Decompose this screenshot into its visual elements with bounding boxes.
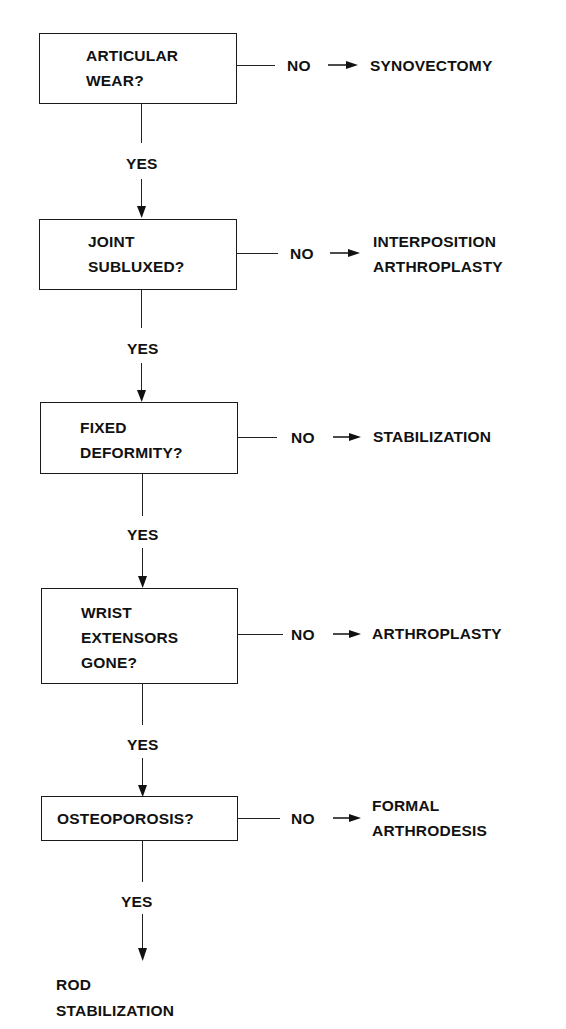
yes-connector-1b [141, 179, 142, 209]
yes-connector-5b [142, 914, 143, 950]
decision-text-joint-subluxed: JOINT SUBLUXED? [88, 229, 185, 279]
yes-connector-4a [142, 684, 143, 725]
no-connector-1 [237, 65, 275, 66]
yes-label-5: YES [121, 889, 153, 914]
right-arrow-icon [328, 61, 361, 822]
outcome-interposition-arthroplasty: INTERPOSITION ARTHROPLASTY [373, 229, 503, 279]
outcome-synovectomy: SYNOVECTOMY [370, 53, 493, 78]
decision-text-wrist-extensors: WRIST EXTENSORS GONE? [81, 600, 178, 675]
flowchart: ARTICULAR WEAR? NO SYNOVECTOMY YES JOINT… [0, 0, 566, 1029]
no-connector-2 [237, 253, 278, 254]
yes-label-2: YES [127, 336, 159, 361]
yes-connector-3a [142, 474, 143, 516]
no-connector-4 [238, 634, 283, 635]
yes-label-4: YES [127, 732, 159, 757]
yes-connector-5a [142, 841, 143, 882]
outcome-arthroplasty: ARTHROPLASTY [372, 621, 502, 646]
no-connector-3 [238, 437, 277, 438]
arrowheads [0, 0, 566, 1029]
decision-text-articular-wear: ARTICULAR WEAR? [86, 43, 178, 93]
no-label-1: NO [287, 53, 311, 78]
outcome-rod-stabilization: ROD STABILIZATION [56, 972, 174, 1024]
decision-text-osteoporosis: OSTEOPOROSIS? [57, 806, 194, 831]
yes-connector-1a [141, 104, 142, 143]
no-label-2: NO [290, 241, 314, 266]
no-label-5: NO [291, 806, 315, 831]
no-connector-5 [238, 818, 280, 819]
yes-label-3: YES [127, 522, 159, 547]
outcome-stabilization: STABILIZATION [373, 424, 491, 449]
yes-connector-3b [142, 548, 143, 580]
yes-connector-2a [141, 290, 142, 328]
yes-connector-4b [142, 758, 143, 788]
yes-label-1: YES [126, 151, 158, 176]
outcome-formal-arthrodesis: FORMAL ARTHRODESIS [372, 793, 487, 843]
yes-connector-2b [141, 363, 142, 393]
no-label-3: NO [291, 425, 315, 450]
no-label-4: NO [291, 622, 315, 647]
decision-text-fixed-deformity: FIXED DEFORMITY? [80, 415, 183, 465]
